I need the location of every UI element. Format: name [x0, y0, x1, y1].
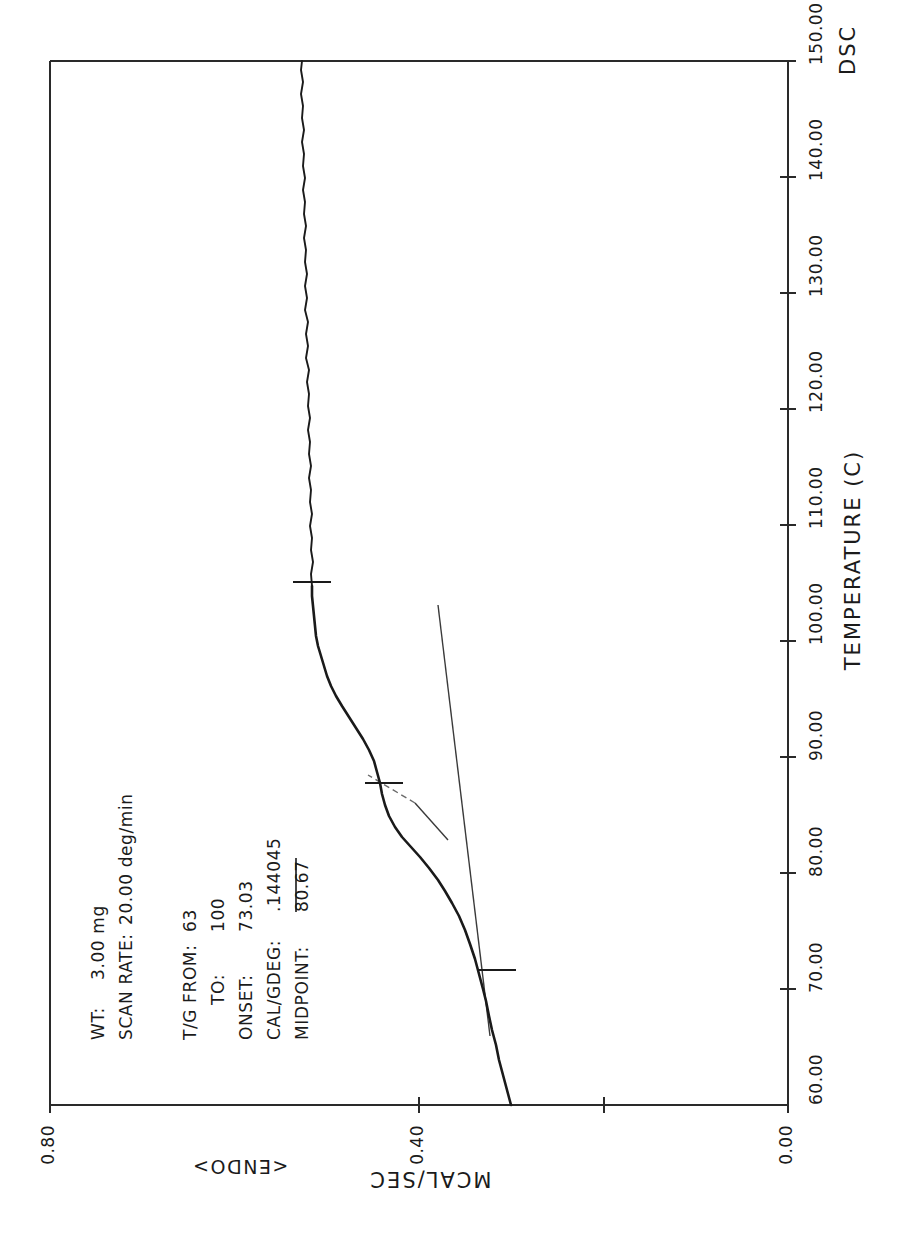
plot-frame — [50, 61, 788, 1105]
onset-tangent-line — [415, 803, 448, 840]
temperature-axis-title: TEMPERATURE (C) — [841, 450, 865, 671]
temp-tick-60: 60.00 — [806, 1054, 826, 1105]
onset-value: 73.03 — [236, 880, 256, 932]
signal-tick-labels: 0.80 0.40 0.00 — [38, 1125, 796, 1165]
tg-from-value: 63 — [180, 909, 200, 932]
analysis-markers — [293, 582, 516, 970]
temp-tick-70: 70.00 — [806, 942, 826, 993]
temp-tick-130: 130.00 — [806, 235, 826, 297]
midpoint-label: MIDPOINT: — [292, 946, 312, 1040]
signal-axis-title: MCAL/SEC — [368, 1167, 491, 1191]
onset-tangent-dashed-extension — [368, 775, 415, 803]
temp-tick-100: 100.00 — [806, 583, 826, 645]
temp-tick-90: 90.00 — [806, 710, 826, 761]
tg-to-label: TO: — [208, 974, 228, 1006]
dsc-thermogram-page: 150.00 140.00 130.00 120.00 110.00 100.0… — [0, 0, 900, 1250]
scan-rate-label: SCAN RATE: — [116, 933, 136, 1040]
dsc-chart-svg: 150.00 140.00 130.00 120.00 110.00 100.0… — [0, 0, 900, 1250]
header-annotations: WT: 3.00 mg SCAN RATE: 20.00 deg/min — [88, 793, 136, 1040]
analysis-annotations: T/G FROM: 63 TO: 100 ONSET: 73.03 CAL/GD… — [180, 838, 312, 1042]
baseline-extrapolation-line — [438, 605, 490, 1036]
temp-tick-120: 120.00 — [806, 351, 826, 413]
temp-tick-110: 110.00 — [806, 467, 826, 529]
endo-direction-label: <ENDO> — [192, 1156, 289, 1178]
temperature-tick-labels: 150.00 140.00 130.00 120.00 110.00 100.0… — [806, 3, 826, 1105]
tg-from-label: T/G FROM: — [180, 945, 200, 1041]
scan-rate-value: 20.00 deg/min — [116, 793, 136, 925]
tg-to-value: 100 — [208, 898, 228, 932]
signal-tick-000: 0.00 — [776, 1125, 796, 1165]
dsc-curve-baseline — [301, 61, 313, 586]
calgdeg-value: .144045 — [264, 838, 284, 913]
signal-tick-040: 0.40 — [407, 1125, 427, 1165]
temp-tick-150: 150.00 — [806, 3, 826, 65]
dsc-curve-transition — [312, 586, 511, 1105]
signal-tick-080: 0.80 — [38, 1125, 58, 1165]
onset-label: ONSET: — [236, 975, 256, 1040]
calgdeg-label: CAL/GDEG: — [264, 940, 284, 1040]
weight-label: WT: — [88, 1007, 108, 1040]
instrument-title: DSC — [836, 25, 860, 75]
weight-value: 3.00 mg — [88, 905, 108, 980]
temp-tick-140: 140.00 — [806, 119, 826, 181]
midpoint-value: 80.67 — [292, 860, 312, 912]
temp-tick-80: 80.00 — [806, 826, 826, 877]
